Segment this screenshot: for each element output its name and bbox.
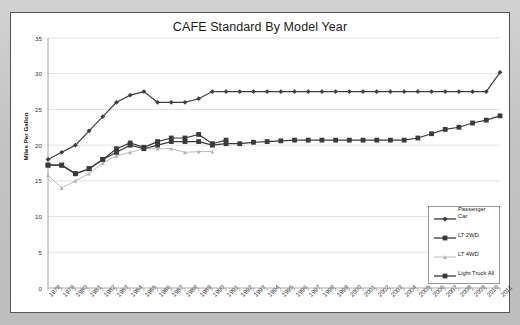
chart-legend[interactable]: PassengerCarLT 2WDLT 4WDLight Truck All	[428, 206, 500, 284]
chart-panel: CAFE Standard By Model Year Miles Per Ga…	[10, 12, 510, 313]
legend-item-lt-4wd[interactable]: LT 4WD	[432, 251, 500, 265]
legend-label: LT 2WD	[458, 232, 479, 238]
legend-item-lt-2wd[interactable]: LT 2WD	[432, 232, 500, 246]
legend-label-secondary: Car	[458, 213, 467, 219]
legend-label: LT 4WD	[458, 251, 479, 257]
window-background: CAFE Standard By Model Year Miles Per Ga…	[0, 0, 520, 325]
series-layer	[46, 70, 503, 190]
legend-label-primary: Passenger	[458, 206, 486, 212]
series-lt-2wd	[46, 132, 229, 176]
square-marker-icon	[433, 271, 457, 281]
legend-item-light-truck-all[interactable]: Light Truck All	[432, 270, 500, 284]
legend-item-passenger[interactable]: PassengerCar	[432, 213, 500, 227]
diamond-marker-icon	[433, 214, 457, 224]
series-lt-4wd	[46, 147, 214, 190]
legend-label: Light Truck All	[458, 270, 494, 276]
square-marker-icon	[433, 233, 457, 243]
triangle-marker-icon	[433, 252, 457, 262]
